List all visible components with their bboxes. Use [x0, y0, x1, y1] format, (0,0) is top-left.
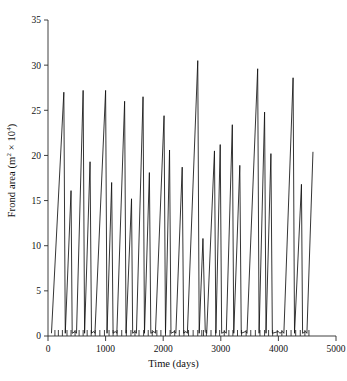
y-tick-label: 35	[32, 15, 42, 25]
y-tick-label: 5	[36, 286, 41, 296]
x-tick-label: 5000	[327, 344, 346, 354]
x-tick-group: 010002000300040005000	[46, 336, 346, 354]
x-tick-label: 0	[46, 344, 51, 354]
y-tick-label: 30	[32, 61, 42, 71]
y-tick-label: 15	[32, 196, 42, 206]
y-tick-label: 20	[32, 151, 42, 161]
x-tick-label: 3000	[211, 344, 230, 354]
frond-area-series-line	[51, 61, 313, 334]
x-axis-label: Time (days)	[0, 358, 347, 369]
plot-area: 05101520253035 010002000300040005000	[0, 0, 347, 381]
y-tick-label: 25	[32, 106, 42, 116]
x-minor-tick-group	[55, 330, 309, 336]
frond-area-chart-figure: Frond area (m2 × 104) 05101520253035 010…	[0, 0, 347, 381]
y-tick-label: 10	[32, 241, 42, 251]
x-tick-label: 2000	[154, 344, 173, 354]
x-tick-label: 4000	[269, 344, 288, 354]
y-tick-group: 05101520253035	[32, 15, 49, 341]
y-tick-label: 0	[36, 331, 41, 341]
x-tick-label: 1000	[96, 344, 115, 354]
